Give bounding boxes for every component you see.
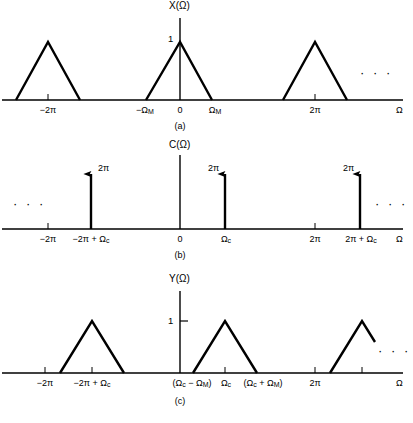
- panel-b-impulse-value-center: 2π: [208, 164, 219, 173]
- panel-b-tick-label-omegac: Ωc: [221, 235, 231, 244]
- panel-c-peak-value: 1: [168, 316, 173, 326]
- panel-b-impulse-value-left: 2π: [98, 164, 109, 173]
- panel-c-tick-label-omegac: Ωc: [221, 379, 231, 388]
- panel-b-tick-label-zero: 0: [177, 235, 182, 244]
- panel-a-plot: [0, 0, 413, 135]
- panel-a-caption: (a): [175, 122, 186, 131]
- panel-a-peak-value: 1: [168, 34, 173, 44]
- panel-c-axis-title: Y(Ω): [169, 274, 190, 284]
- panel-b-tick-label-neg2pi: −2π: [40, 235, 56, 244]
- panel-a-tick-label-zero: 0: [177, 106, 182, 115]
- panel-c-tick-label-2pi: 2π: [309, 379, 320, 388]
- panel-a: X(Ω) 1 −2π −ΩM 0 ΩM 2π Ω · · · (a): [0, 0, 413, 135]
- panel-b-caption: (b): [175, 251, 186, 260]
- panel-c-triangle-neg2pi-plus-omegac: [60, 321, 124, 373]
- panel-c-x-axis-label: Ω: [396, 379, 403, 388]
- panel-a-x-axis-label: Ω: [396, 106, 403, 115]
- panel-a-tick-label-2pi: 2π: [309, 106, 320, 115]
- panel-a-tick-label-neg-omega-m: −ΩM: [136, 106, 154, 115]
- panel-c: Y(Ω) 1 −2π −2π + Ωc (Ωc − ΩM) Ωc (Ωc + Ω…: [0, 272, 413, 423]
- panel-a-axis-title: X(Ω): [169, 1, 190, 11]
- panel-b-impulse-value-right: 2π: [343, 164, 354, 173]
- panel-c-plot: [0, 272, 413, 423]
- panel-c-tick-label-neg2pi: −2π: [37, 379, 53, 388]
- panel-b-plot: [0, 138, 413, 272]
- panel-b-x-axis-label: Ω: [396, 235, 403, 244]
- panel-a-tick-label-neg2pi: −2π: [40, 106, 56, 115]
- panel-b-tick-label-neg2pi-plus-omegac: −2π + Ωc: [73, 235, 110, 244]
- panel-b-ellipsis-right: · · ·: [375, 197, 408, 210]
- panel-c-tick-label-omegac-plus-omegam: (Ωc + ΩM): [243, 379, 282, 388]
- panel-b-tick-label-2pi-plus-omegac: 2π + Ωc: [345, 235, 377, 244]
- panel-c-tick-label-omegac-minus-omegam: (Ωc − ΩM): [172, 379, 211, 388]
- panel-b-tick-label-2pi: 2π: [309, 235, 320, 244]
- panel-a-ellipsis: · · ·: [360, 66, 393, 79]
- panel-c-triangle-2pi-plus-omegac: [330, 321, 375, 373]
- panel-b: C(Ω) 2π 2π 2π −2π −2π + Ωc 0 Ωc 2π 2π + …: [0, 138, 413, 272]
- panel-b-axis-title: C(Ω): [169, 140, 190, 150]
- panel-a-tick-label-omega-m: ΩM: [209, 106, 222, 115]
- figure-amplitude-modulation-spectra: X(Ω) 1 −2π −ΩM 0 ΩM 2π Ω · · · (a): [0, 0, 413, 423]
- panel-a-triangle-2pi: [283, 42, 347, 100]
- panel-a-triangle-zero: [146, 42, 212, 100]
- panel-c-tick-label-neg2pi-plus-omegac: −2π + Ωc: [74, 379, 111, 388]
- panel-c-ellipsis: · · ·: [378, 344, 411, 357]
- panel-a-triangle-neg2pi: [16, 42, 80, 100]
- panel-c-caption: (c): [175, 397, 186, 406]
- panel-c-triangle-omegac: [193, 321, 257, 373]
- panel-b-ellipsis-left: · · ·: [13, 197, 46, 210]
